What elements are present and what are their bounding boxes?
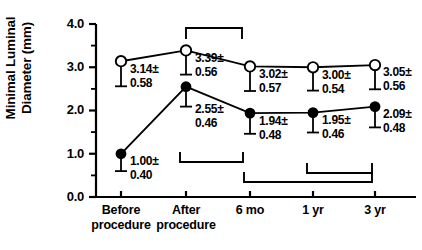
significance-bracket-bottom-2 [307,163,372,173]
y-axis-title: Minimal Luminal Diameter (mm) [3,0,35,163]
x-tick-label-after-procedure-line2: procedure [136,218,236,233]
y-axis-title-line1: Minimal Luminal [3,0,19,163]
data-label-filled-0: 1.00± 0.40 [130,155,158,182]
y-tick-label-0: 0.0 [50,189,84,204]
data-label-filled-4: 2.09± 0.48 [383,108,411,135]
x-tick-label-3-yr: 3 yr [335,203,415,218]
data-label-open-0: 3.14± 0.58 [130,63,158,90]
significance-bracket-top [186,28,242,39]
chart-figure: Minimal Luminal Diameter (mm) 4.0 3.0 2.… [0,0,422,250]
data-label-open-1: 3.39± 0.56 [195,52,223,79]
x-tick-label-3-yr-line1: 3 yr [335,203,415,218]
data-label-filled-1: 2.55± 0.46 [195,103,223,130]
y-tick-label-4: 4.0 [50,16,84,31]
data-label-open-3: 3.00± 0.54 [322,69,350,96]
y-tick-label-3: 3.0 [50,59,84,74]
data-label-open-2: 3.02± 0.57 [259,68,287,95]
data-label-filled-2: 1.94± 0.48 [259,115,287,142]
data-label-filled-3: 1.95± 0.46 [322,114,350,141]
y-axis-title-line2: Diameter (mm) [19,0,35,163]
significance-bracket-bottom-1 [180,152,243,162]
y-tick-label-2: 2.0 [50,102,84,117]
data-label-open-4: 3.05± 0.56 [383,66,411,93]
y-tick-label-1: 1.0 [50,146,84,161]
